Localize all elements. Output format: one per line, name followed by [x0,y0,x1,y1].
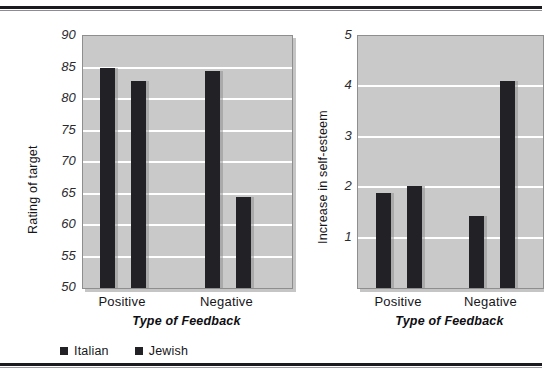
plot-area-left [82,35,293,289]
page-rule-top-hairline [0,10,542,11]
gridline [358,85,543,87]
y-axis-tick-label: 70 [44,153,76,168]
figure-body: Rating of target 505560657075808590 Posi… [0,14,542,362]
plot-area-right [357,35,544,289]
x-axis-tick-label: Positive [353,294,443,309]
bar [500,81,515,288]
y-axis-tick-label: 3 [332,128,352,143]
gridline [358,186,543,188]
y-axis-tick-label: 4 [332,77,352,92]
y-axis-tick-label: 75 [44,122,76,137]
legend-item: Jewish [135,344,188,358]
y-axis-tick-label: 80 [44,90,76,105]
y-axis-title-right: Increase in self-esteem [316,110,330,244]
legend-label: Italian [74,344,109,358]
legend-swatch-icon [135,347,143,355]
page-rule-bottom [0,363,542,366]
legend-item: Italian [60,344,109,358]
bar [469,216,484,288]
gridline [358,136,543,138]
bar [236,197,251,288]
bar [131,81,146,288]
chart-panel-left: Rating of target 505560657075808590 Posi… [0,14,300,362]
y-axis-tick-label: 50 [44,279,76,294]
chart-legend: ItalianJewish [60,344,260,358]
chart-panel-right: Increase in self-esteem 12345 PositiveNe… [300,14,542,362]
y-axis-tick-label: 60 [44,216,76,231]
y-axis-tick-label: 1 [332,229,352,244]
y-axis-title-left: Rating of target [26,145,40,234]
y-axis-tick-label: 5 [332,27,352,42]
y-axis-tick-label: 2 [332,178,352,193]
page-rule-top [0,6,542,9]
bar [205,71,220,288]
bar [407,186,422,288]
y-axis-tick-label: 65 [44,185,76,200]
y-axis-tick-label: 55 [44,248,76,263]
x-axis-tick-label: Negative [446,294,536,309]
x-axis-title-right: Type of Feedback [357,314,542,328]
y-axis-tick-label: 85 [44,59,76,74]
page-rule-bottom-hairline [0,367,542,368]
bar [376,193,391,288]
legend-label: Jewish [149,344,188,358]
x-axis-title-left: Type of Feedback [82,314,291,328]
bar [100,68,115,289]
y-axis-tick-label: 90 [44,27,76,42]
legend-swatch-icon [60,347,68,355]
x-axis-tick-label: Positive [77,294,167,309]
x-axis-tick-label: Negative [182,294,272,309]
